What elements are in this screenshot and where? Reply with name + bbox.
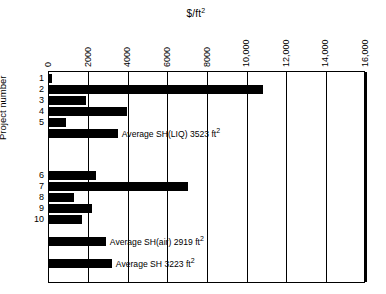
bar [48, 215, 82, 224]
y-axis-category-label: 9 [39, 204, 44, 213]
y-axis-category-labels: 12345678910 [0, 71, 46, 283]
bar-annotation: Average SH(LIQ) 3523 ft2 [122, 130, 220, 139]
x-axis-tick-label: 12,000 [280, 39, 290, 67]
y-axis-category-label: 3 [39, 96, 44, 105]
y-axis-category-label: 6 [39, 171, 44, 180]
bar [48, 237, 106, 246]
y-axis-category-label: 8 [39, 193, 44, 202]
bar [48, 107, 127, 116]
x-axis-tick-label: 16,000 [360, 39, 370, 67]
chart-title-text: $/ft [187, 8, 202, 19]
y-axis-category-label: 4 [39, 107, 44, 116]
x-axis-tick-label: 4000 [122, 47, 132, 67]
bar-annotation: Average SH 3223 ft2 [116, 260, 195, 269]
x-axis-tick-label: 8000 [201, 47, 211, 67]
bar [48, 118, 66, 127]
bar [48, 182, 188, 191]
bars-layer: Average SH(LIQ) 3523 ft2Average SH(air) … [48, 71, 365, 283]
x-axis-tick-label: 6000 [161, 47, 171, 67]
bar [48, 193, 74, 202]
y-axis-category-label: 1 [39, 74, 44, 83]
bar [48, 96, 86, 105]
chart-title-superscript: 2 [201, 7, 205, 14]
gridline [365, 72, 366, 282]
bar [48, 74, 52, 83]
bar [48, 129, 118, 138]
y-axis-category-label: 10 [34, 215, 44, 224]
bar-chart: $/ft2 Project number 0200040006000800010… [0, 0, 386, 294]
bar [48, 85, 263, 94]
x-axis-tick-label: 2000 [82, 47, 92, 67]
bar [48, 259, 112, 268]
chart-title: $/ft2 [0, 8, 386, 19]
bar-annotation: Average SH(air) 2919 ft2 [110, 238, 204, 247]
x-axis-tick-label: 14,000 [320, 39, 330, 67]
y-axis-category-label: 2 [39, 85, 44, 94]
x-axis-tick-label: 0 [43, 62, 53, 67]
x-axis-tick-label: 10,000 [241, 39, 251, 67]
y-axis-category-label: 7 [39, 182, 44, 191]
bar [48, 204, 92, 213]
bar [48, 171, 96, 180]
y-axis-category-label: 5 [39, 118, 44, 127]
